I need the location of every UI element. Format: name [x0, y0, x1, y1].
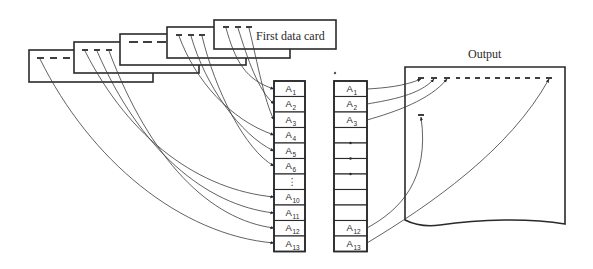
marker-dot: [334, 72, 336, 74]
card-to-array-diagram: First data card A1A2A3A4A5A6⋮A10A11A12A1…: [0, 0, 593, 269]
input-array-cell-label: A: [286, 238, 293, 249]
input-array-cell-subscript: 3: [293, 120, 297, 127]
input-array-cell-label: A: [286, 160, 293, 171]
input-array-cell-subscript: 11: [293, 213, 300, 220]
output-array-cell-subscript: 3: [354, 120, 358, 127]
data-card-stack: First data card: [29, 20, 336, 82]
output-array-cell: [334, 174, 367, 190]
output-array-cell-label: A: [347, 114, 354, 125]
output-array-cell-subscript: 13: [354, 244, 362, 251]
output-array-cell-label: A: [347, 83, 354, 94]
output-array-cell-label: A: [347, 222, 354, 233]
input-array-cell-label: ⋮: [288, 176, 298, 187]
output-array-cell-label: A: [347, 98, 354, 109]
data-card-1: First data card: [214, 20, 336, 49]
output-array-cell-label: A: [347, 238, 354, 249]
output-array-cell: [334, 128, 367, 144]
output-array-cell: [334, 143, 367, 159]
output-page: Output: [405, 47, 565, 226]
input-array-cell-label: A: [286, 129, 293, 140]
ellipsis-dot: [349, 173, 351, 175]
output-array-cell-subscript: 1: [354, 89, 358, 96]
ellipsis-dot: [349, 142, 351, 144]
input-array-cell-label: A: [286, 207, 293, 218]
input-array-cell-subscript: 1: [293, 89, 297, 96]
output-array-cell: [334, 205, 367, 221]
output-array: A1A2A3A12A13: [334, 81, 367, 252]
output-array-cell-subscript: 12: [354, 228, 362, 235]
input-array-cell-label: A: [286, 191, 293, 202]
output-array-cell: [334, 159, 367, 175]
input-array-cell-label: A: [286, 145, 293, 156]
input-array-cell-subscript: 10: [293, 197, 301, 204]
input-array-cell-label: A: [286, 222, 293, 233]
input-array-cell-subscript: 12: [293, 228, 301, 235]
input-array-cell-label: A: [286, 114, 293, 125]
input-array-cell-label: A: [286, 83, 293, 94]
input-array: A1A2A3A4A5A6⋮A10A11A12A13: [274, 81, 305, 252]
input-array-cell-label: A: [286, 98, 293, 109]
input-array-cell-subscript: 4: [293, 135, 297, 142]
input-array-cell-subscript: 13: [293, 244, 301, 251]
output-array-cell: [334, 190, 367, 206]
output-label: Output: [468, 47, 502, 61]
input-array-cell-subscript: 5: [293, 151, 297, 158]
input-array-cell-subscript: 6: [293, 166, 297, 173]
input-array-cell-subscript: 2: [293, 104, 297, 111]
first-data-card-label: First data card: [256, 29, 325, 43]
output-array-cell-subscript: 2: [354, 104, 358, 111]
ellipsis-dot: [349, 157, 351, 159]
